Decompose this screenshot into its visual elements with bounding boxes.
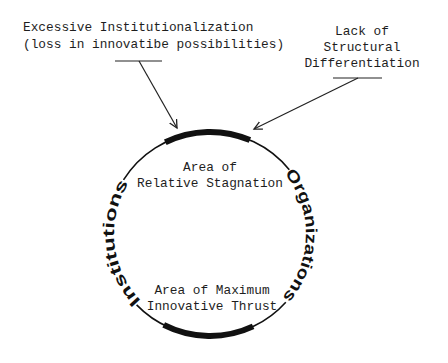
institutions-organizations-diagram: Excessive Institutionalization (loss in … [0,0,448,363]
top-area-line2: Relative Stagnation [137,176,283,191]
bottom-area-line1: Area of Maximum [154,283,270,298]
annotation-left-line1: Excessive Institutionalization [23,20,253,35]
area-relative-stagnation: Area of Relative Stagnation [137,160,283,191]
annotation-right-line1: Lack of [335,24,389,39]
area-maximum-innovative-thrust: Area of Maximum Innovative Thrust [147,283,278,314]
arrow-right-icon [254,78,358,129]
arrow-left-icon [139,61,177,128]
annotation-excessive-institutionalization: Excessive Institutionalization (loss in … [23,20,284,128]
institutions-label: Institutions [100,176,143,310]
top-area-line1: Area of [183,160,237,175]
annotation-left-line2: (loss in innovatibe possibilities) [23,37,284,52]
innovation-band [164,325,253,336]
annotation-right-line2: Structural [324,40,401,55]
bottom-area-line2: Innovative Thrust [147,299,278,314]
organizations-label: Organizations [280,165,320,306]
stagnation-band [165,132,250,142]
annotation-right-line3: Differentiation [304,56,419,71]
